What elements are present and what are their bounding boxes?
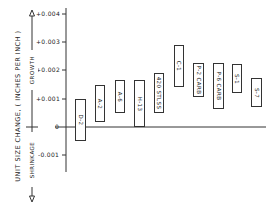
- bar-420-stlss: 420 STLSS: [154, 73, 164, 113]
- y-axis-label: UNIT SIZE CHANGE, ( INCHES PER INCH ): [14, 30, 22, 181]
- bar-c-1: C-1: [174, 45, 184, 87]
- bar-a-2: A-2: [95, 85, 105, 122]
- bar-p-2-carb: P-2 CARB: [193, 63, 204, 97]
- ytick-label: 0: [55, 123, 59, 130]
- bar-a-6: A-6: [115, 80, 125, 113]
- bar-s-7: S-7: [251, 78, 262, 107]
- bar-d-2: D-2: [75, 99, 86, 141]
- ytick-label: +0.004: [36, 10, 60, 17]
- ytick-label: +0.001: [36, 95, 60, 102]
- chart-area: +0.004 +0.003 +0.002 +0.001 0 -0.001 UNI…: [0, 0, 277, 206]
- bar-s-1: S-1: [232, 64, 242, 93]
- y-axis-title: UNIT SIZE CHANGE, ( INCHES PER INCH ): [8, 10, 28, 200]
- ytick-label: +0.003: [36, 38, 60, 45]
- shrinkage-label: SHRINKAGE: [29, 132, 35, 188]
- ytick-label: -0.001: [38, 151, 59, 158]
- bar-h-13: H-13: [134, 80, 145, 127]
- growth-label: GROWTH: [29, 50, 35, 90]
- bar-p-6-carb: P-6 CARB: [213, 63, 224, 109]
- ytick-label: +0.002: [36, 66, 60, 73]
